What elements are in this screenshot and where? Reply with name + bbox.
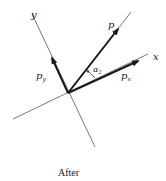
caption: After (58, 167, 80, 178)
p-vector-label: p (108, 19, 115, 30)
angle-label: α2 (93, 65, 102, 75)
px-vector-label: px (121, 70, 131, 82)
vector-py (52, 58, 68, 93)
rotated-axes-diagram: y x p py px α2 After (0, 0, 166, 181)
x-axis-label: x (153, 51, 159, 62)
py-vector-label: py (36, 70, 46, 83)
y-axis-label: y (30, 9, 37, 20)
vector-p (68, 29, 118, 93)
